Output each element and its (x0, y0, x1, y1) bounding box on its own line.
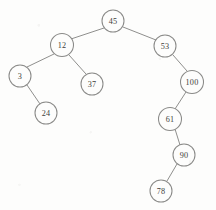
edge-100-61 (175, 92, 186, 109)
edge-12-37 (69, 55, 86, 74)
node-label-24: 24 (42, 109, 51, 118)
node-label-53: 53 (161, 42, 170, 51)
edge-12-3 (27, 54, 54, 67)
edge-45-12 (71, 28, 104, 39)
tree-node-61[interactable]: 61 (159, 108, 182, 131)
edge-53-100 (173, 55, 187, 71)
edge-90-78 (167, 164, 177, 181)
node-label-3: 3 (18, 72, 22, 81)
edge-61-90 (175, 129, 180, 145)
tree-node-37[interactable]: 37 (81, 73, 103, 95)
node-label-37: 37 (88, 80, 97, 89)
tree-canvas: 45 12 53 3 37 100 (0, 0, 216, 210)
edge-3-24 (27, 85, 40, 104)
node-label-45: 45 (109, 17, 118, 26)
tree-node-53[interactable]: 53 (154, 35, 176, 57)
node-label-12: 12 (58, 41, 67, 50)
edge-45-53 (123, 27, 156, 40)
tree-node-78[interactable]: 78 (150, 180, 172, 202)
tree-node-12[interactable]: 12 (51, 34, 74, 57)
node-label-100: 100 (186, 78, 199, 87)
node-label-78: 78 (157, 187, 166, 196)
tree-node-24[interactable]: 24 (35, 102, 57, 124)
node-label-61: 61 (166, 115, 175, 124)
node-group: 45 12 53 3 37 100 (9, 10, 204, 202)
tree-node-3[interactable]: 3 (9, 65, 31, 87)
binary-tree-diagram: 45 12 53 3 37 100 (0, 0, 216, 210)
tree-node-100[interactable]: 100 (181, 71, 204, 94)
tree-node-90[interactable]: 90 (173, 144, 195, 166)
node-label-90: 90 (180, 151, 189, 160)
tree-node-45[interactable]: 45 (102, 10, 124, 32)
